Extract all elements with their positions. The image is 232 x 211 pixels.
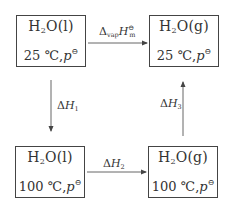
label-vaporization-enthalpy: ΔvapH⊖m bbox=[99, 24, 135, 39]
species-label: H2O(l) bbox=[27, 147, 72, 172]
label-delta-h3: ΔH3 bbox=[160, 97, 182, 111]
state-box-top-right: H2O(g) 25 ℃,p⊖ bbox=[149, 15, 219, 67]
state-box-top-left: H2O(l) 25 ℃,p⊖ bbox=[16, 15, 86, 67]
conditions-label: 25 ℃,p⊖ bbox=[157, 41, 211, 67]
conditions-label: 25 ℃,p⊖ bbox=[24, 41, 78, 67]
species-label: H2O(g) bbox=[159, 16, 209, 41]
label-delta-h2: ΔH2 bbox=[103, 157, 125, 171]
state-box-bottom-right: H2O(g) 100 ℃,p⊖ bbox=[148, 146, 218, 198]
conditions-label: 100 ℃,p⊖ bbox=[19, 172, 82, 198]
conditions-label: 100 ℃,p⊖ bbox=[152, 172, 215, 198]
state-box-bottom-left: H2O(l) 100 ℃,p⊖ bbox=[15, 146, 85, 198]
species-label: H2O(g) bbox=[158, 147, 208, 172]
label-delta-h1: ΔH1 bbox=[57, 99, 79, 113]
species-label: H2O(l) bbox=[28, 16, 73, 41]
